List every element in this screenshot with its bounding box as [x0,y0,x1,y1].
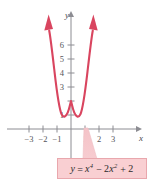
equation-text: y=x4−2x2+2 [71,162,134,174]
y-tick-label-3: 3 [60,82,64,92]
callout-pointer [83,128,97,159]
equation-term3: 2 [128,164,133,175]
equation-op1: − [96,164,102,175]
x-axis-label: x [138,133,143,143]
y-tick-label-5: 5 [60,54,64,64]
y-axis-label: y [64,10,69,20]
equation-lhs: y [71,164,76,175]
curve-arrowhead-right [89,15,98,31]
y-tick-label-6: 6 [60,40,64,50]
axes-group: −3 −2 −1 1 2 3 1 3 4 5 6 x y [7,10,143,178]
equation-term2-exponent: 2 [114,162,117,169]
x-tick-label--1: −1 [52,134,61,144]
figure-container: −3 −2 −1 1 2 3 1 3 4 5 6 x y [0,0,152,185]
equation-callout-box: y=x4−2x2+2 [57,158,147,179]
curve-arrowhead-left [44,15,53,31]
equation-op2: + [120,164,126,175]
x-tick-label--2: −2 [38,134,47,144]
x-tick-label-3: 3 [111,134,115,144]
equation-equals: = [77,164,83,175]
x-tick-label--3: −3 [24,134,33,144]
y-tick-label-4: 4 [60,68,65,78]
x-tick-label-2: 2 [97,134,101,144]
equation-term1-exponent: 4 [90,162,93,169]
